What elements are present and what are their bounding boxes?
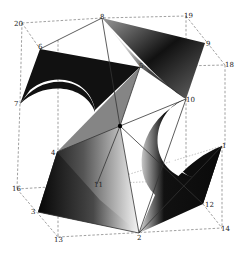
label-19: 19 — [184, 12, 193, 20]
label-14: 14 — [221, 225, 230, 233]
label-12: 12 — [205, 201, 214, 209]
label-10: 10 — [186, 96, 195, 104]
label-9: 9 — [206, 40, 210, 48]
label-1: 1 — [222, 142, 226, 150]
label-16: 16 — [12, 185, 21, 193]
label-4: 4 — [51, 149, 56, 157]
diagram-canvas: 20 8 19 9 18 6 5 7 10 4 1 11 16 12 3 14 … — [0, 0, 243, 256]
label-5: 5 — [139, 62, 143, 70]
label-7: 7 — [14, 100, 18, 108]
label-3: 3 — [31, 208, 35, 216]
label-20: 20 — [14, 20, 23, 28]
label-8: 8 — [100, 13, 104, 21]
label-11: 11 — [94, 181, 103, 189]
label-2: 2 — [137, 234, 141, 242]
label-13: 13 — [54, 236, 63, 244]
surface-diagram: 20 8 19 9 18 6 5 7 10 4 1 11 16 12 3 14 … — [0, 0, 243, 256]
label-18: 18 — [225, 61, 234, 69]
center-point-marker — [118, 124, 122, 128]
label-6: 6 — [38, 43, 43, 51]
